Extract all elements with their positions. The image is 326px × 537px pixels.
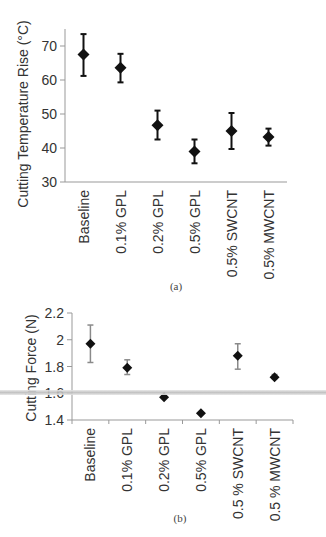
x-tick-label: 0.2% GPL <box>156 428 172 492</box>
y-tick-label: 1.8 <box>45 359 65 375</box>
x-tick-label: 0.5% MWCNT <box>261 190 277 280</box>
diamond-marker <box>152 119 164 131</box>
x-tick-label: Baseline <box>76 190 92 244</box>
y-ticks-b: 1.41.61.822.2 <box>45 305 72 428</box>
y-tick-label: 1.4 <box>45 412 65 428</box>
data-point <box>152 111 164 140</box>
data-point <box>122 360 132 375</box>
data-point <box>233 344 243 369</box>
x-tick-labels-b: Baseline0.1% GPL0.2% GPL0.5% GPL0.5 % SW… <box>72 420 293 521</box>
axes-a <box>65 29 287 182</box>
diamond-marker <box>263 131 275 143</box>
diamond-marker <box>85 339 95 349</box>
diamond-marker <box>115 62 127 74</box>
data-point <box>196 408 206 418</box>
axes-b <box>72 313 293 420</box>
y-tick-label: 70 <box>41 38 57 54</box>
x-tick-label: 0.5 % SWCNT <box>230 428 246 519</box>
x-tick-label: 0.5% GPL <box>193 428 209 492</box>
x-tick-label: 0.1% GPL <box>119 428 135 492</box>
chart-a: Cutting Temperature Rise (°C) 3040506070… <box>0 0 326 300</box>
y-tick-label: 30 <box>41 174 57 190</box>
x-tick-label: 0.2% GPL <box>150 190 166 254</box>
diamond-marker <box>270 372 280 382</box>
diamond-marker <box>122 363 132 373</box>
x-tick-label: 0.5% GPL <box>187 190 203 254</box>
data-point <box>189 140 201 164</box>
y-tick-label: 60 <box>41 72 57 88</box>
diamond-marker <box>226 125 238 137</box>
x-tick-label: 0.5 % MWCNT <box>267 428 283 522</box>
diamond-marker <box>233 351 243 361</box>
data-point <box>226 113 238 149</box>
y-ticks-a: 3040506070 <box>41 38 65 190</box>
svg-text:Cutting Force (N): Cutting Force (N) <box>23 314 39 421</box>
y-tick-label: 40 <box>41 140 57 156</box>
data-point <box>78 34 90 76</box>
diamond-marker <box>196 408 206 418</box>
data-point <box>263 129 275 146</box>
chart-b: Cutting Force (N) 1.41.61.822.2 Baseline… <box>0 300 326 537</box>
diamond-marker <box>78 49 90 61</box>
data-point <box>85 325 95 362</box>
data-points-b <box>85 325 279 418</box>
data-point <box>115 54 127 83</box>
y-axis-label-a: Cutting Temperature Rise (°C) <box>15 20 31 207</box>
x-tick-labels-a: Baseline0.1% GPL0.2% GPL0.5% GPL0.5% SWC… <box>76 190 277 280</box>
diamond-marker <box>189 145 201 157</box>
y-axis-label-b: Cutting Force (N) <box>23 314 39 421</box>
x-tick-label: 0.1% GPL <box>113 190 129 254</box>
caption-a: (a) <box>170 280 183 293</box>
caption-b: (b) <box>174 512 187 525</box>
svg-text:Cutting Temperature Rise (°C): Cutting Temperature Rise (°C) <box>15 20 31 207</box>
y-tick-label: 50 <box>41 106 57 122</box>
data-points-a <box>78 34 275 163</box>
data-point <box>270 372 280 382</box>
y-tick-label: 2 <box>56 332 64 348</box>
scan-artifact-band <box>0 390 326 395</box>
x-tick-label: Baseline <box>82 428 98 482</box>
x-tick-label: 0.5% SWCNT <box>224 190 240 278</box>
y-tick-label: 2.2 <box>45 305 65 321</box>
